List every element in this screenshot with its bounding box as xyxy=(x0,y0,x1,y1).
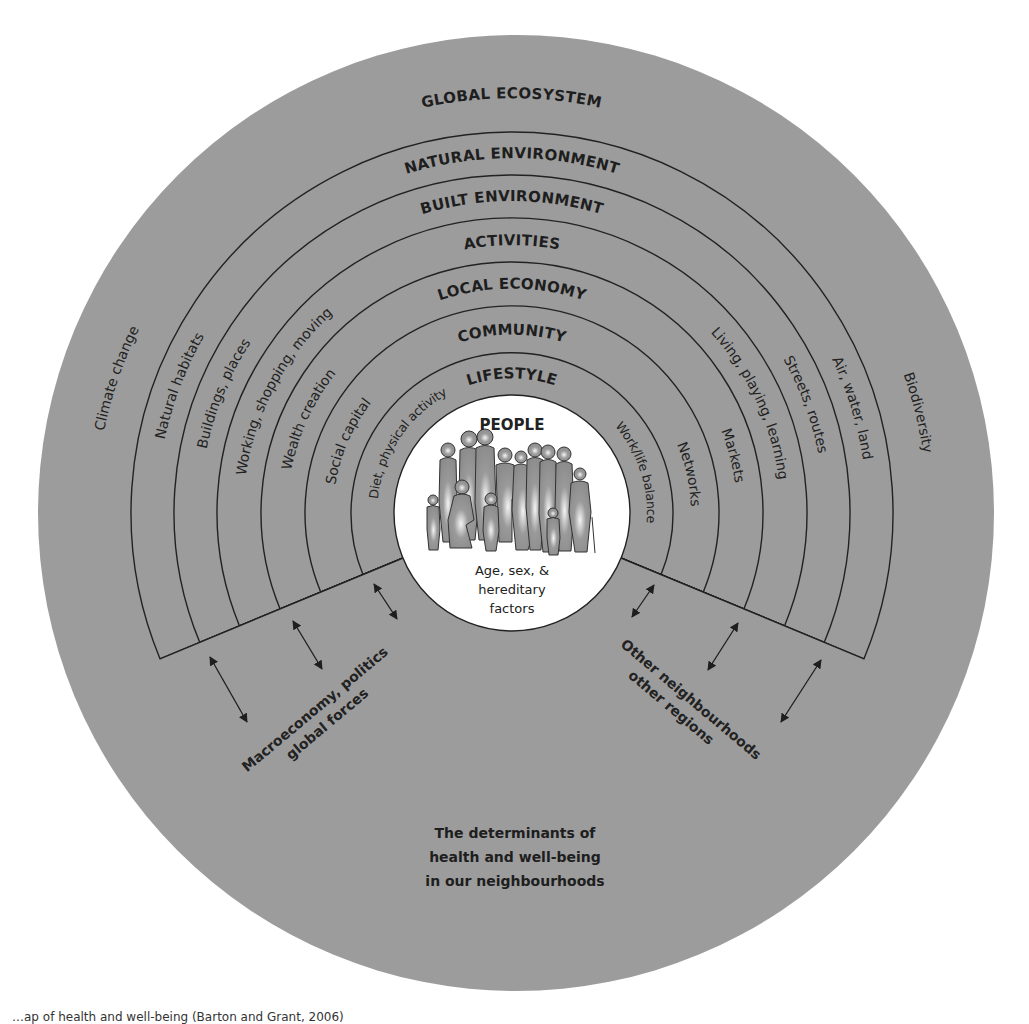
diagram-title-line-2: health and well-being xyxy=(429,849,601,865)
figure-caption: …ap of health and well-being (Barton and… xyxy=(12,1010,344,1024)
health-map-diagram: PEOPLE Age, sex, & hereditary factors GL… xyxy=(0,0,1029,1024)
people-sub-line-3: factors xyxy=(490,601,535,616)
people-sub-line-1: Age, sex, & xyxy=(475,563,549,578)
people-sub-line-2: hereditary xyxy=(478,582,546,597)
diagram-title-line-3: in our neighbourhoods xyxy=(425,873,604,889)
people-title: PEOPLE xyxy=(480,416,545,434)
diagram-title-line-1: The determinants of xyxy=(435,825,597,841)
